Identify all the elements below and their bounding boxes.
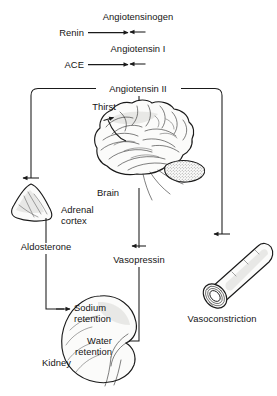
brain-illustration (95, 100, 205, 200)
node-kidney-label: Kidney (42, 357, 71, 368)
diagram-canvas: Angiotensinogen Renin Angiotensin I ACE … (0, 0, 277, 396)
node-water-retention-line1: Water (87, 335, 112, 346)
node-renin: Renin (59, 27, 84, 38)
node-sodium-retention-line1: Sodium (74, 302, 106, 313)
adrenal-gland-illustration (12, 184, 52, 221)
node-vasoconstriction: Vasoconstriction (188, 313, 257, 324)
node-vasopressin: Vasopressin (113, 254, 164, 265)
branch-aldosterone-to-kidney (46, 254, 64, 309)
node-angiotensinogen: Angiotensinogen (103, 11, 174, 22)
node-sodium-retention-line2: retention (74, 313, 111, 324)
node-aldosterone: Aldosterone (21, 241, 72, 252)
node-water-retention-line2: retention (75, 346, 112, 357)
branch-angiotensin-ii-to-adrenal (31, 89, 96, 179)
node-brain-label: Brain (97, 187, 119, 198)
node-adrenal-cortex-line2: cortex (61, 215, 87, 226)
node-angiotensin-i: Angiotensin I (111, 43, 166, 54)
blood-vessel-illustration (198, 243, 272, 312)
node-adrenal-cortex-line1: Adrenal (61, 204, 94, 215)
node-thirst: Thirst (92, 101, 116, 112)
node-ace: ACE (65, 59, 84, 70)
raas-diagram: Angiotensinogen Renin Angiotensin I ACE … (0, 0, 277, 396)
node-angiotensin-ii: Angiotensin II (109, 83, 167, 94)
brain-cerebellum (165, 161, 205, 183)
